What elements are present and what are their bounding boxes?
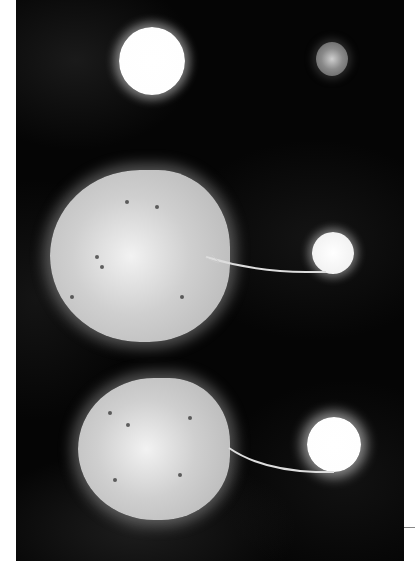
space-illustration — [16, 0, 404, 561]
mass-transfer-streams — [16, 0, 404, 561]
edge-mark — [404, 527, 415, 528]
